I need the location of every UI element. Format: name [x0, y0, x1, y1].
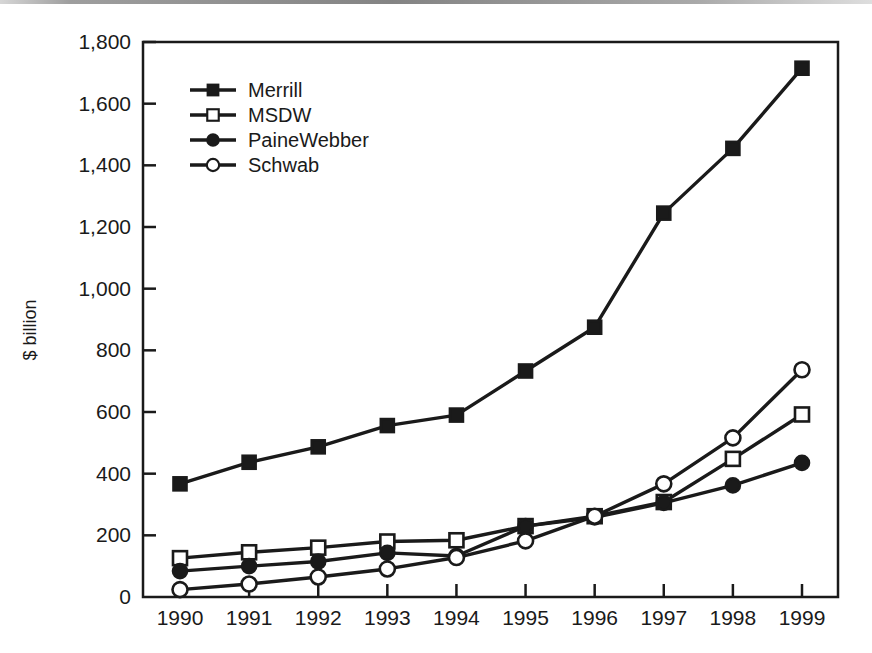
data-point-marker-filled-square	[312, 440, 325, 453]
data-point-marker-open-circle	[207, 159, 219, 171]
data-point-marker-filled-square	[657, 207, 670, 220]
data-point-marker-open-circle	[725, 430, 740, 445]
data-point-marker-filled-circle	[173, 564, 187, 578]
line-chart: 02004006008001,0001,2001,4001,6001,800 1…	[0, 0, 872, 653]
data-point-marker-filled-square	[174, 477, 187, 490]
data-point-marker-filled-square	[208, 85, 219, 96]
x-axis-tick-label: 1993	[364, 606, 411, 629]
x-axis-tick-label: 1998	[710, 606, 757, 629]
data-point-marker-filled-circle	[657, 496, 671, 510]
y-axis-title: $ billion	[20, 299, 40, 360]
y-axis-tick-label: 0	[119, 585, 131, 608]
y-axis-tick-label: 1,600	[78, 92, 131, 115]
data-point-marker-open-circle	[311, 569, 326, 584]
data-point-marker-open-square	[207, 109, 218, 120]
data-point-marker-filled-circle	[311, 555, 325, 569]
data-point-marker-filled-square	[381, 419, 394, 432]
y-axis-tick-label: 1,200	[78, 215, 131, 238]
data-point-marker-filled-circle	[726, 478, 740, 492]
data-point-marker-open-square	[726, 452, 740, 466]
data-point-marker-open-circle	[587, 509, 602, 524]
y-axis-tick-label: 800	[96, 338, 131, 361]
x-axis-tick-label: 1997	[640, 606, 687, 629]
data-point-marker-filled-square	[796, 62, 809, 75]
legend-label: MSDW	[248, 104, 311, 126]
x-axis-tick-label: 1999	[779, 606, 826, 629]
legend-label: Schwab	[248, 154, 319, 176]
data-point-marker-open-circle	[173, 582, 188, 597]
data-point-marker-open-circle	[449, 550, 464, 565]
legend-label: Merrill	[248, 79, 302, 101]
data-point-marker-filled-circle	[380, 546, 394, 560]
y-axis-tick-label: 1,800	[78, 30, 131, 53]
data-point-marker-open-square	[449, 533, 463, 547]
x-axis-tick-label: 1991	[226, 606, 273, 629]
data-point-marker-filled-circle	[242, 559, 256, 573]
chart-figure: 02004006008001,0001,2001,4001,6001,800 1…	[0, 0, 872, 653]
x-axis-tick-label: 1990	[157, 606, 204, 629]
data-point-marker-open-square	[311, 541, 325, 555]
data-point-marker-filled-square	[726, 142, 739, 155]
data-point-marker-filled-square	[588, 321, 601, 334]
x-axis-tick-label: 1994	[433, 606, 480, 629]
data-point-marker-open-circle	[656, 476, 671, 491]
data-point-marker-open-square	[242, 545, 256, 559]
data-point-marker-open-circle	[518, 533, 533, 548]
y-axis-tick-label: 1,400	[78, 153, 131, 176]
data-point-marker-filled-circle	[207, 134, 218, 145]
x-axis-tick-label: 1995	[502, 606, 549, 629]
y-axis-tick-label: 600	[96, 400, 131, 423]
data-point-marker-filled-circle	[519, 519, 533, 533]
data-point-marker-open-square	[795, 407, 809, 421]
data-point-marker-open-circle	[380, 561, 395, 576]
data-point-marker-filled-circle	[795, 456, 809, 470]
data-point-marker-filled-square	[243, 456, 256, 469]
data-point-marker-filled-square	[450, 409, 463, 422]
x-axis-tick-label: 1996	[571, 606, 618, 629]
data-point-marker-filled-square	[519, 364, 532, 377]
y-axis-tick-label: 400	[96, 462, 131, 485]
x-axis-tick-label: 1992	[295, 606, 342, 629]
data-point-marker-open-circle	[795, 362, 810, 377]
y-axis-tick-label: 200	[96, 523, 131, 546]
y-axis-tick-label: 1,000	[78, 277, 131, 300]
data-point-marker-open-circle	[242, 577, 257, 592]
legend-label: PaineWebber	[248, 129, 369, 151]
